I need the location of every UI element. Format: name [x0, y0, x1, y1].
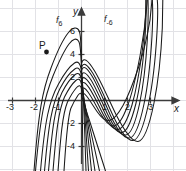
- y-tick-label-6: 6: [70, 27, 75, 36]
- y-axis-label: y: [73, 7, 78, 17]
- grid-lines: [0, 0, 186, 171]
- curve-label-fm6: f-6: [104, 15, 113, 26]
- point-label-P: P: [39, 41, 46, 51]
- curve-family: [34, 0, 163, 171]
- curve-fm2: [82, 0, 148, 126]
- curve-label-f6-subscript: 6: [59, 20, 63, 27]
- x-tick-label--3: -3: [6, 103, 14, 112]
- y-tick-label-2: 2: [70, 73, 75, 82]
- x-tick-label--2: -2: [30, 103, 38, 112]
- x-tick-label-2: 2: [125, 103, 130, 112]
- y-tick-label-4: 4: [70, 50, 75, 59]
- x-tick-label-1: 1: [102, 103, 107, 112]
- y-tick-label--2: -2: [67, 119, 75, 128]
- function-family-figure: -3 -2 -1 1 2 3 6 4 2 -2 -4 x y f6 f-6 P: [0, 0, 186, 171]
- curve-label-fm6-subscript: -6: [107, 19, 113, 26]
- x-tick-label--1: -1: [53, 103, 61, 112]
- curve-label-f6: f6: [56, 16, 62, 27]
- y-tick-label--4: -4: [67, 142, 75, 151]
- x-axis-label: x: [174, 104, 179, 114]
- plot-canvas: [0, 0, 186, 171]
- x-tick-label-3: 3: [148, 103, 153, 112]
